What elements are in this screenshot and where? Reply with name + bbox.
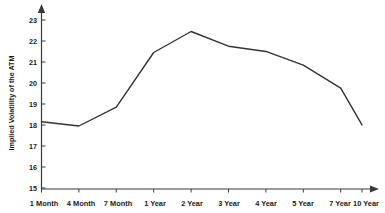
- x-tick-label: 1 Month: [30, 199, 59, 208]
- y-tick-label: 15: [29, 184, 37, 193]
- x-tick-label: 10 Year: [353, 199, 379, 208]
- x-tick-label: 3 Year: [218, 199, 240, 208]
- x-axis-arrow-icon: [370, 185, 379, 192]
- y-axis-tick-labels: 15 16 17 18 19 20 21 22 23: [29, 16, 37, 193]
- y-tick-label: 21: [29, 58, 37, 67]
- y-tick-label: 18: [29, 121, 37, 130]
- y-axis: [38, 4, 45, 189]
- x-tick-label: 2 Year: [181, 199, 203, 208]
- x-tick-label: 4 Month: [67, 199, 96, 208]
- y-tick-label: 16: [29, 163, 37, 172]
- x-axis: [42, 185, 380, 192]
- y-tick-label: 19: [29, 100, 37, 109]
- x-tick-label: 7 Year: [329, 199, 351, 208]
- x-tick-label: 1 Year: [144, 199, 166, 208]
- y-tick-label: 17: [29, 142, 37, 151]
- y-tick-label: 23: [29, 16, 37, 25]
- y-axis-arrow-icon: [38, 4, 45, 13]
- y-axis-title: Implied Volatility of the ATM: [7, 56, 16, 151]
- x-tick-label: 7 Month: [104, 199, 133, 208]
- chart-container: 15 16 17 18 19 20 21 22 23 1 Month 4 M: [0, 0, 385, 213]
- series-line-implied-volatility: [42, 32, 363, 127]
- x-tick-label: 5 Year: [292, 199, 314, 208]
- y-tick-label: 22: [29, 37, 37, 46]
- line-chart: 15 16 17 18 19 20 21 22 23 1 Month 4 M: [0, 0, 385, 213]
- x-axis-tick-labels: 1 Month 4 Month 7 Month 1 Year 2 Year 3 …: [30, 199, 379, 208]
- y-tick-label: 20: [29, 79, 37, 88]
- x-tick-label: 4 Year: [255, 199, 277, 208]
